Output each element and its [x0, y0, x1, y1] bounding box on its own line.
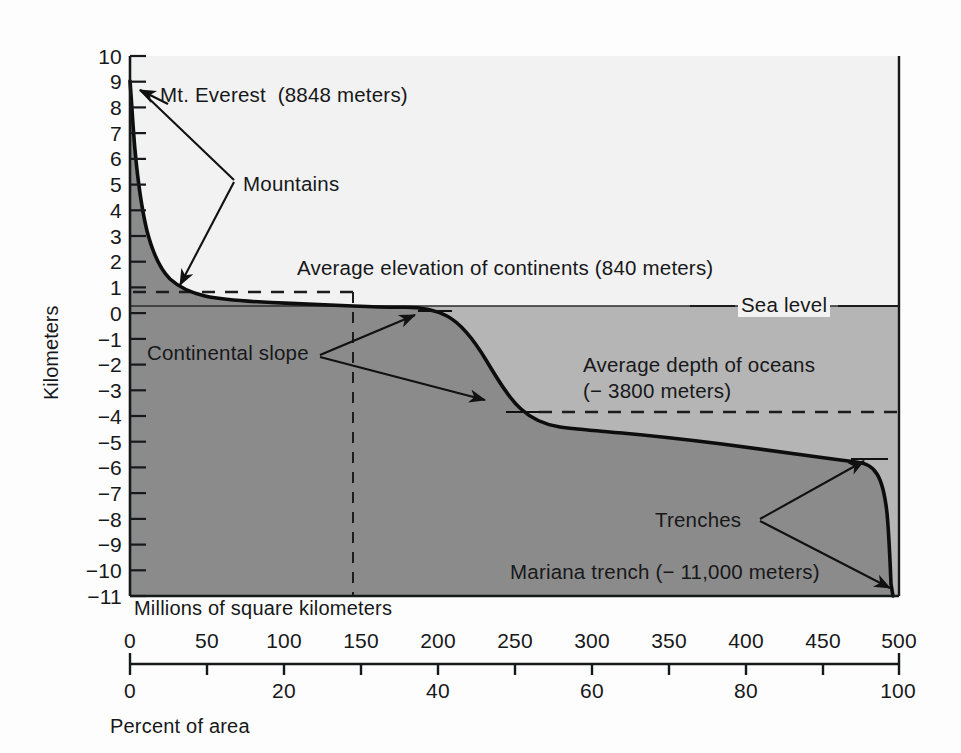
x-tick-label-percent-60: 60: [569, 679, 615, 703]
y-tick-label-6: 6: [84, 147, 122, 171]
x-tick-label-area-450: 450: [796, 629, 850, 653]
y-tick-label-neg8: −8: [70, 508, 122, 532]
x-tick-label-percent-20: 20: [261, 679, 307, 703]
x-tick-label-area-300: 300: [565, 629, 619, 653]
y-tick-label-7: 7: [84, 122, 122, 146]
x-tick-label-percent-0: 0: [110, 679, 150, 703]
y-tick-label-neg7: −7: [70, 482, 122, 506]
y-tick-label-10: 10: [84, 45, 122, 69]
x-tick-label-area-500: 500: [872, 629, 926, 653]
y-tick-label-neg4: −4: [70, 405, 122, 429]
y-tick-label-3: 3: [84, 225, 122, 249]
annotation-mountains: Mountains: [243, 172, 339, 196]
annotation-average-depth-of-oceans-line2: (− 3800 meters): [583, 379, 731, 403]
y-tick-label-5: 5: [84, 173, 122, 197]
annotation-mt-everest: Mt. Everest (8848 meters): [160, 83, 408, 107]
x-tick-label-area-0: 0: [110, 629, 150, 653]
y-tick-label-neg3: −3: [70, 379, 122, 403]
y-tick-label-neg2: −2: [70, 353, 122, 377]
y-tick-label-neg1: −1: [70, 328, 122, 352]
annotation-sea-level: Sea level: [738, 293, 830, 317]
y-tick-label-neg10: −10: [58, 559, 122, 583]
x-axis-title-bottom: Percent of area: [110, 715, 250, 738]
x-tick-label-area-200: 200: [411, 629, 465, 653]
annotation-trenches: Trenches: [655, 508, 741, 532]
y-tick-label-1: 1: [84, 276, 122, 300]
x-tick-label-area-400: 400: [719, 629, 773, 653]
annotation-average-elevation-of-continents: Average elevation of continents (840 met…: [297, 256, 713, 280]
hypsographic-curve-figure: Kilometers 10 9 8 7 6 5 4 3 2 1 0 −1 −2 …: [0, 0, 961, 753]
y-tick-label-8: 8: [84, 96, 122, 120]
y-tick-label-neg6: −6: [70, 456, 122, 480]
y-tick-label-neg5: −5: [70, 431, 122, 455]
x-tick-label-percent-80: 80: [723, 679, 769, 703]
x-tick-label-percent-40: 40: [415, 679, 461, 703]
annotation-continental-slope: Continental slope: [147, 341, 309, 365]
x-axis-title-top: Millions of square kilometers: [134, 597, 392, 620]
x-tick-label-area-50: 50: [184, 629, 230, 653]
x-tick-label-area-100: 100: [257, 629, 311, 653]
x-tick-label-percent-100: 100: [868, 679, 928, 703]
x-tick-label-area-250: 250: [488, 629, 542, 653]
y-tick-label-0: 0: [84, 302, 122, 326]
x-tick-label-area-350: 350: [642, 629, 696, 653]
y-tick-label-neg11: −11: [58, 585, 122, 609]
x-tick-label-area-150: 150: [334, 629, 388, 653]
y-tick-label-neg9: −9: [70, 533, 122, 557]
annotation-average-depth-of-oceans-line1: Average depth of oceans: [583, 353, 815, 377]
y-tick-label-9: 9: [84, 70, 122, 94]
y-tick-label-4: 4: [84, 199, 122, 223]
y-axis-title: Kilometers: [40, 306, 63, 400]
annotation-mariana-trench: Mariana trench (− 11,000 meters): [510, 560, 820, 584]
y-tick-label-2: 2: [84, 250, 122, 274]
